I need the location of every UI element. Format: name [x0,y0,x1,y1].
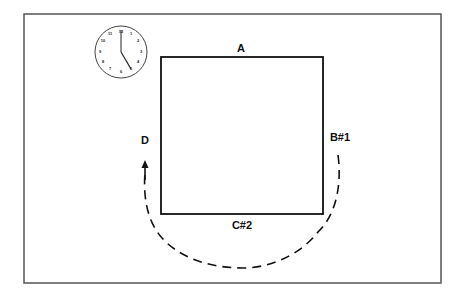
label-top: A [237,42,245,54]
clock-icon: 12 1 2 3 4 5 6 7 8 9 10 11 [95,26,147,78]
outer-frame [24,14,441,283]
diagram-canvas: 12 1 2 3 4 5 6 7 8 9 10 11 A B#1 C#2 D [0,0,462,298]
square-shape [161,57,323,214]
label-bottom: C#2 [232,219,252,231]
label-left: D [141,134,149,146]
clock-numeral: 10 [101,38,106,43]
arrow-up-icon [142,160,149,180]
dashed-path [145,155,340,268]
label-right: B#1 [330,131,350,143]
